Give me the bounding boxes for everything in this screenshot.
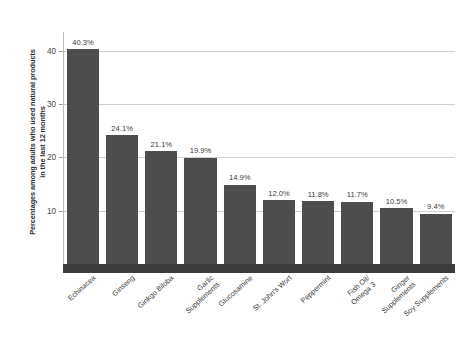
- bar-value-label: 40.3%: [72, 38, 94, 47]
- bar-value-label: 24.1%: [111, 124, 133, 133]
- bar-chart: Percentages among adults who used natura…: [0, 0, 470, 349]
- bar[interactable]: [341, 202, 373, 264]
- bar-slot: 9.4%: [420, 32, 452, 264]
- bar-slot: 14.9%: [224, 32, 256, 264]
- bar-slot: 19.9%: [184, 32, 216, 264]
- bar-value-label: 9.4%: [427, 202, 444, 211]
- bar[interactable]: [184, 158, 216, 264]
- x-axis-labels-group: EchinaceaGinsengGinkgo BilobaGarlic Supp…: [63, 274, 463, 349]
- bar-slot: 21.1%: [145, 32, 177, 264]
- y-tick-label-20: 20: [47, 153, 56, 162]
- bar-slot: 40.3%: [67, 32, 99, 264]
- bar[interactable]: [145, 151, 177, 264]
- y-tick-label-10: 10: [47, 206, 56, 215]
- x-axis-label: Ginseng: [64, 274, 137, 341]
- x-axis-label: Echinacea: [25, 274, 98, 341]
- bar[interactable]: [106, 135, 138, 264]
- bar[interactable]: [67, 49, 99, 264]
- bar[interactable]: [420, 214, 452, 264]
- bar[interactable]: [224, 185, 256, 264]
- bar-value-label: 19.9%: [190, 146, 212, 155]
- y-tick-label-40: 40: [47, 46, 56, 55]
- x-axis-label: St. John's Wort: [221, 274, 294, 341]
- y-tick-label-30: 30: [47, 100, 56, 109]
- bar-slot: 10.5%: [380, 32, 412, 264]
- bar-value-label: 14.9%: [229, 173, 251, 182]
- bar-slot: 24.1%: [106, 32, 138, 264]
- bar-value-label: 11.8%: [308, 190, 329, 199]
- bar[interactable]: [380, 208, 412, 264]
- bar-value-label: 11.7%: [347, 190, 368, 199]
- bar[interactable]: [302, 201, 334, 264]
- bar-slot: 11.8%: [302, 32, 334, 264]
- bar-slot: 11.7%: [341, 32, 373, 264]
- bar-slot: 12.0%: [263, 32, 295, 264]
- x-axis-baseline: [63, 264, 455, 273]
- bar-value-label: 12.0%: [268, 189, 290, 198]
- bar[interactable]: [263, 200, 295, 264]
- bar-value-label: 21.1%: [151, 140, 173, 149]
- bar-value-label: 10.5%: [386, 197, 408, 206]
- y-axis-title: Percentages among adults who used natura…: [28, 22, 48, 262]
- bars-group: 40.3%24.1%21.1%19.9%14.9%12.0%11.8%11.7%…: [63, 32, 455, 264]
- plot-area: 10203040 40.3%24.1%21.1%19.9%14.9%12.0%1…: [63, 32, 455, 264]
